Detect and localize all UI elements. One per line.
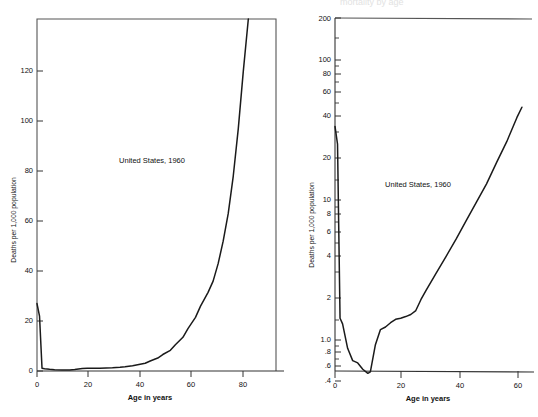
y-tick-label: 40	[323, 111, 331, 120]
x-axis-title: Age in years	[406, 394, 451, 403]
x-tick-label: 20	[397, 381, 405, 390]
y-tick-label: 20	[323, 153, 331, 162]
log-scale-chart-panel: mortality by age	[300, 0, 538, 417]
linear-chart-svg: 0 20 40 60 80 100 120 0 20 40 60 80 Age …	[0, 0, 300, 417]
y-axis-title: Deaths per 1,000 population	[10, 177, 18, 263]
y-tick-label: 40	[25, 266, 33, 275]
y-tick-label: 60	[25, 216, 33, 225]
y-tick-label: 80	[25, 166, 33, 175]
x-axis-ticks	[37, 371, 243, 377]
y-tick-label: 100	[318, 55, 331, 64]
x-tick-label: 0	[35, 380, 39, 389]
y-tick-label: 60	[323, 87, 331, 96]
x-axis-title: Age in years	[128, 393, 173, 402]
y-tick-label: .8	[325, 347, 331, 356]
cropped-title-remnant: mortality by age	[340, 0, 404, 7]
y-tick-label: 80	[323, 69, 331, 78]
mortality-curve	[335, 107, 522, 373]
y-tick-label: .4	[325, 376, 331, 385]
x-tick-label: 0	[333, 381, 337, 390]
y-tick-label: .6	[325, 361, 331, 370]
chart-annotation: United States, 1960	[119, 156, 185, 165]
x-tick-label: 20	[84, 380, 92, 389]
y-tick-label: 200	[318, 14, 331, 23]
y-tick-label: 2	[327, 293, 331, 302]
y-tick-label: 1.0	[321, 335, 331, 344]
y-tick-label: 120	[20, 66, 33, 75]
chart-annotation: United States, 1960	[385, 180, 451, 189]
top-rule-200	[335, 18, 532, 19]
log-chart-svg: mortality by age	[300, 0, 538, 417]
x-tick-label: 60	[187, 380, 195, 389]
y-tick-label: 4	[327, 251, 331, 260]
x-tick-label: 40	[136, 380, 144, 389]
x-tick-label: 80	[239, 380, 247, 389]
y-axis-tick-labels: 200 100 80 60 40 20 10 8 6 4 2 1.0 .8 .6…	[318, 14, 331, 385]
x-tick-label: 60	[514, 381, 522, 390]
y-tick-label: 6	[327, 227, 331, 236]
x-axis-tick-labels: 0 20 40 60 80	[35, 380, 247, 389]
y-axis-title: Deaths per 1,000 population	[308, 182, 316, 268]
linear-scale-chart-panel: 0 20 40 60 80 100 120 0 20 40 60 80 Age …	[0, 0, 300, 417]
plot-frame	[37, 19, 276, 371]
x-axis-tick-labels: 0 20 40 60	[333, 381, 522, 390]
y-tick-label: 20	[25, 316, 33, 325]
y-tick-label: 100	[20, 116, 33, 125]
y-tick-label: 10	[323, 195, 331, 204]
y-tick-label: 8	[327, 209, 331, 218]
y-tick-label: 0	[29, 366, 33, 375]
mortality-curve	[37, 19, 248, 370]
x-tick-label: 40	[456, 381, 464, 390]
y-axis-tick-labels: 0 20 40 60 80 100 120	[20, 66, 33, 375]
